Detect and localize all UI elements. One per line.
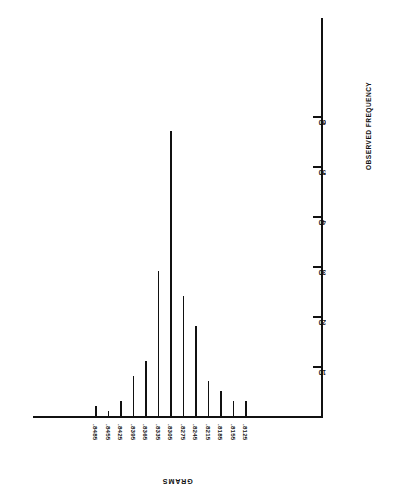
y-axis-tick [313,166,322,168]
histogram-bar [183,296,185,416]
histogram-bar [95,406,97,416]
y-axis-tick-label: 60 [318,119,326,125]
y-axis-tick-label: 30 [318,269,326,275]
x-axis-tick-label: .8185 [217,424,223,440]
x-axis-tick-label: .8425 [117,424,123,440]
plot-area: 102030405060 .8485.8455.8425.8395.8365.8… [0,0,393,493]
x-axis-tick-label: .8215 [204,424,210,440]
x-axis-tick-label: .8485 [92,424,98,440]
x-axis-tick-label: .8365 [142,424,148,440]
x-axis-tick-label: .8155 [229,424,235,440]
y-axis-tick-label: 50 [318,169,326,175]
histogram-bar [220,391,222,416]
histogram-bar [170,131,172,416]
histogram-bar [233,401,235,416]
histogram-bar [208,381,210,416]
histogram-bar [245,401,247,416]
x-axis-tick-label: .8455 [104,424,110,440]
y-axis-tick [313,116,322,118]
y-axis-title: OBSERVED FREQUENCY [366,82,373,170]
y-axis-tick-label: 40 [318,219,326,225]
x-axis-line [33,416,323,418]
y-axis-tick [313,266,322,268]
x-axis-tick-label: .8275 [179,424,185,440]
histogram-bar [158,271,160,416]
x-axis-tick-label: .8245 [192,424,198,440]
x-axis-tick-label: .8305 [167,424,173,440]
y-axis-tick-label: 10 [318,369,326,375]
x-axis-tick-label: .8395 [129,424,135,440]
y-axis-tick [313,216,322,218]
y-axis-tick-label: 20 [318,319,326,325]
histogram-bar [195,326,197,416]
y-axis-tick [313,316,322,318]
histogram-bar [108,411,110,416]
histogram-bar [133,376,135,416]
histogram-bar [120,401,122,416]
histogram-bar [145,361,147,416]
y-axis-line [321,18,323,418]
y-axis-tick [313,366,322,368]
x-axis-tick-label: .8125 [242,424,248,440]
x-axis-title: GRAMS [162,478,193,485]
x-axis-tick-label: .8335 [154,424,160,440]
histogram-figure: 102030405060 .8485.8455.8425.8395.8365.8… [0,0,393,493]
